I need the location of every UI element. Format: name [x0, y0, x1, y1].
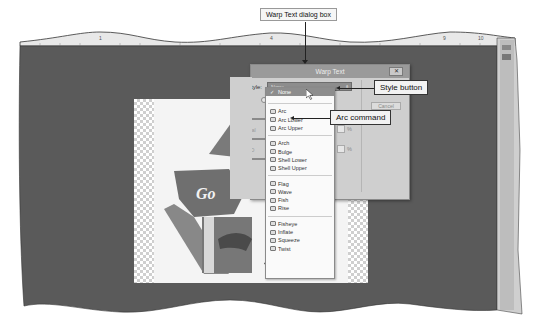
- close-button[interactable]: ✕: [389, 67, 403, 76]
- menu-item-none[interactable]: ✓ None: [266, 88, 334, 96]
- menu-item-flag[interactable]: Flag: [266, 179, 334, 187]
- rise-icon: [270, 206, 276, 211]
- arc-lower-icon: [270, 117, 276, 122]
- menu-item-bulge[interactable]: Bulge: [266, 147, 334, 155]
- divider: [361, 80, 362, 192]
- arc-upper-icon: [270, 126, 276, 131]
- image-text-go: Go: [196, 185, 216, 203]
- dialog-title: Warp Text: [316, 68, 345, 75]
- squeeze-icon: [270, 238, 276, 243]
- shell-upper-icon: [270, 166, 276, 171]
- callout-arrow: [294, 118, 330, 119]
- fish-icon: [270, 198, 276, 203]
- ruler-tick-label: 1: [99, 35, 102, 41]
- chevron-down-icon: ⇕: [345, 83, 349, 91]
- ruler-tick-label: 9: [443, 35, 446, 41]
- check-icon: ✓: [270, 89, 278, 95]
- shell-lower-icon: [270, 157, 276, 162]
- arrowhead-icon: [302, 60, 308, 64]
- mouse-pointer-icon: [306, 89, 314, 100]
- twist-icon: [270, 246, 276, 251]
- horizontal-value-input[interactable]: [337, 125, 345, 133]
- cancel-button[interactable]: Cancel: [371, 102, 401, 110]
- menu-item-inflate[interactable]: Inflate: [266, 228, 334, 236]
- ruler-tick-label: 10: [478, 35, 484, 41]
- screenshot-stage: 1 4 9 10 Go G Warp Text ✕ Style: None: [0, 0, 536, 332]
- callout-arrow: [305, 22, 306, 62]
- menu-item-arch[interactable]: Arch: [266, 139, 334, 147]
- menu-item-squeeze[interactable]: Squeeze: [266, 236, 334, 244]
- arrowhead-icon: [336, 86, 340, 90]
- wave-icon: [270, 189, 276, 194]
- callout-warp-text-dialog: Warp Text dialog box: [260, 8, 337, 21]
- menu-item-fish[interactable]: Fish: [266, 196, 334, 204]
- menu-item-rise[interactable]: Rise: [266, 204, 334, 212]
- callout-style-button: Style button: [374, 80, 428, 95]
- menu-separator: [268, 103, 332, 104]
- arch-icon: [270, 141, 276, 146]
- callout-arrow: [340, 88, 374, 89]
- percent-label: %: [347, 146, 352, 152]
- menu-separator: [268, 216, 332, 217]
- menu-item-arc[interactable]: Arc: [266, 107, 334, 115]
- menu-item-twist[interactable]: Twist: [266, 244, 334, 252]
- menu-item-wave[interactable]: Wave: [266, 188, 334, 196]
- menu-item-fisheye[interactable]: Fisheye: [266, 220, 334, 228]
- arrowhead-icon: [290, 116, 294, 120]
- percent-label: %: [347, 126, 352, 132]
- menu-item-arc-upper[interactable]: Arc Upper: [266, 124, 334, 132]
- menu-separator: [268, 135, 332, 136]
- callout-arc-command: Arc command: [330, 110, 391, 125]
- arc-icon: [270, 109, 276, 114]
- dialog-left-region: [230, 77, 252, 199]
- style-dropdown-menu: ✓ None Arc Arc Lower Arc Upper Arch Bulg…: [265, 87, 335, 279]
- vertical-value-input[interactable]: [337, 145, 345, 153]
- flag-icon: [270, 181, 276, 186]
- menu-separator: [268, 175, 332, 176]
- ruler-tick-label: 4: [270, 35, 273, 41]
- menu-item-shell-lower[interactable]: Shell Lower: [266, 156, 334, 164]
- menu-item-shell-upper[interactable]: Shell Upper: [266, 164, 334, 172]
- bulge-icon: [270, 149, 276, 154]
- fisheye-icon: [270, 221, 276, 226]
- menu-item-arc-lower[interactable]: Arc Lower: [266, 116, 334, 124]
- dialog-titlebar[interactable]: Warp Text ✕: [251, 65, 409, 78]
- inflate-icon: [270, 230, 276, 235]
